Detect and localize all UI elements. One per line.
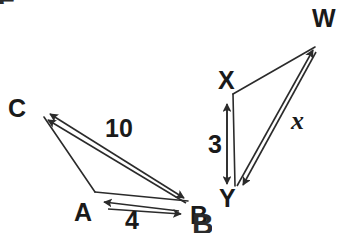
clipped-glyph-top-left: e — [0, 0, 20, 4]
vertex-label-a: A — [74, 200, 92, 225]
side-c-a — [44, 117, 95, 192]
measure-label-yw: x — [291, 108, 304, 134]
vertex-label-w: W — [312, 6, 336, 31]
measure-label-ab: 4 — [125, 208, 139, 233]
vertex-label-y: Y — [219, 186, 236, 211]
measure-label-cb: 10 — [105, 116, 133, 141]
geometry-figure-canvas: C A B 10 4 W X Y 3 x e B — [0, 0, 345, 233]
side-x-w — [233, 47, 315, 94]
vertex-label-x: X — [218, 68, 235, 93]
measure-label-xy: 3 — [208, 132, 222, 157]
vertex-label-c: C — [8, 96, 26, 121]
side-x-y — [233, 94, 235, 186]
clipped-glyph-bottom-center: B — [192, 209, 212, 233]
measure-arrow-wy — [243, 52, 316, 185]
